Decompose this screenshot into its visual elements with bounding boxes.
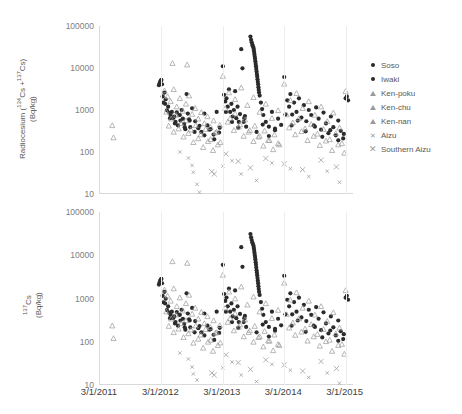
- data-point: [211, 118, 216, 123]
- data-point: [244, 325, 248, 329]
- data-point: [239, 245, 243, 249]
- data-point: [191, 340, 196, 345]
- data-point: [331, 310, 336, 315]
- data-point: [258, 94, 262, 98]
- data-point: [297, 96, 301, 100]
- data-point: [210, 148, 215, 153]
- legend-item-soso[interactable]: Soso: [367, 58, 431, 72]
- data-point: [110, 323, 115, 328]
- y-tick-label: 100: [80, 337, 94, 347]
- data-point: [233, 288, 237, 292]
- data-point: [267, 125, 271, 129]
- legend-item-ken-chu[interactable]: Ken-chu: [367, 100, 431, 114]
- y-axis-ticks-top: 10100100010000100000: [32, 26, 94, 194]
- data-point: [294, 310, 298, 314]
- data-point: [287, 105, 291, 109]
- data-point: [181, 134, 186, 139]
- data-point: [336, 118, 340, 122]
- data-point: [270, 110, 274, 114]
- legend-item-aizu[interactable]: ✕Aizu: [367, 128, 431, 142]
- data-point: [215, 110, 219, 114]
- y-tick-label: 100: [80, 147, 94, 157]
- data-point: [288, 291, 292, 295]
- data-point: [246, 129, 251, 134]
- data-point: [315, 131, 320, 136]
- data-point: [195, 378, 198, 381]
- data-point: [239, 284, 244, 289]
- data-point: [331, 325, 335, 329]
- data-point: [294, 290, 299, 295]
- data-point: [210, 348, 215, 353]
- cross-icon: ✕: [367, 145, 378, 154]
- data-point: [294, 110, 298, 114]
- chart-panel-bottom: 137Cs(Bq/kg) 10100100010000100000 SosoIw…: [0, 200, 462, 414]
- data-point: [275, 307, 280, 312]
- data-point: [251, 294, 256, 299]
- data-point: [321, 310, 325, 314]
- data-point: [238, 112, 242, 116]
- data-point: [240, 265, 244, 269]
- open-triangle-icon: [367, 119, 378, 124]
- data-point: [245, 302, 250, 307]
- legend-item-southern-aizu[interactable]: ✕Southern Aizu: [367, 142, 431, 156]
- data-point: [254, 330, 258, 334]
- data-point: [258, 293, 262, 297]
- data-point: [248, 367, 253, 372]
- data-point: [334, 366, 339, 371]
- legend-item-ken-poku[interactable]: Ken-poku: [367, 86, 431, 100]
- data-point: [202, 121, 207, 126]
- data-point: [293, 332, 298, 337]
- data-point: [338, 382, 341, 385]
- data-point: [320, 135, 324, 139]
- data-point: [327, 137, 332, 142]
- data-point: [181, 117, 185, 121]
- legend-item-iwaki[interactable]: Iwaki: [367, 72, 431, 86]
- data-point: [254, 130, 258, 134]
- data-point: [177, 96, 182, 101]
- x-axis-labels: 3/1/20113/1/20123/1/20133/1/20143/1/2015: [0, 386, 462, 408]
- data-point: [170, 110, 174, 114]
- data-point: [226, 289, 231, 294]
- data-point: [306, 99, 311, 104]
- data-point: [289, 368, 292, 371]
- data-point: [223, 151, 228, 156]
- data-point: [170, 310, 174, 314]
- open-triangle-icon: [367, 91, 378, 96]
- data-point: [263, 156, 268, 161]
- legend-label: Ken-nan: [381, 117, 411, 126]
- data-point: [185, 62, 190, 67]
- y-tick-label: 1000: [75, 294, 94, 304]
- data-point: [270, 363, 273, 366]
- data-point: [187, 357, 190, 360]
- data-point: [229, 102, 233, 106]
- grid-line: [284, 212, 285, 385]
- data-point: [272, 132, 277, 137]
- data-point: [190, 164, 193, 167]
- data-point: [270, 310, 274, 314]
- data-point: [251, 95, 256, 100]
- data-point: [318, 104, 323, 109]
- data-point: [304, 119, 308, 123]
- data-point: [171, 129, 176, 134]
- data-point: [263, 101, 268, 106]
- data-point: [218, 126, 222, 130]
- data-point: [293, 132, 298, 137]
- grid-line: [223, 212, 224, 385]
- data-point: [231, 128, 236, 133]
- data-point: [163, 301, 167, 305]
- data-point: [328, 328, 332, 332]
- data-point: [297, 296, 301, 300]
- chart-panel-top: Radiocesium (134Cs +137Cs)(Bq/kg) 101001…: [0, 0, 462, 207]
- data-point: [300, 368, 305, 373]
- legend-item-ken-nan[interactable]: Ken-nan: [367, 114, 431, 128]
- filled-circle-icon: [367, 63, 378, 67]
- data-point: [307, 376, 310, 379]
- data-point: [255, 380, 258, 383]
- data-point: [290, 312, 294, 316]
- data-point: [321, 110, 325, 114]
- data-point: [229, 301, 233, 305]
- data-point: [168, 99, 173, 104]
- y-tick-label: 10: [85, 189, 94, 199]
- data-point: [233, 89, 237, 93]
- data-point: [178, 351, 181, 354]
